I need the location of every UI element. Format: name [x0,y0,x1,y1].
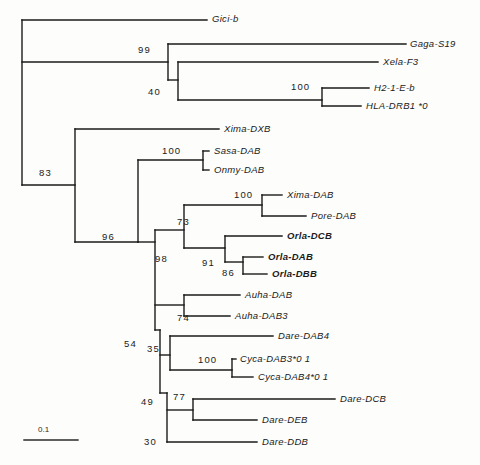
taxon-label-xima-dab: Xima-DAB [287,190,334,200]
taxon-label-xela-f3: Xela-F3 [383,57,418,67]
support-value-node-99: 99 [138,45,151,55]
support-value-node-35: 35 [147,344,160,354]
scale-bar-label: 0.1 [38,425,49,434]
support-value-node-30: 30 [144,437,157,447]
support-value-node-96: 96 [102,232,115,242]
phylogenetic-tree-figure: Gici-bGaga-S19Xela-F3H2-1-E-bHLA-DRB1 *0… [0,0,480,465]
taxon-label-orla-dcb: Orla-DCB [287,231,332,241]
taxon-label-auha-dab: Auha-DAB [245,290,292,300]
support-value-node-73: 73 [177,217,190,227]
taxon-label-onmy-dab: Onmy-DAB [214,165,264,175]
support-value-node-100d: 100 [198,355,217,365]
taxon-label-xima-dxb: Xima-DXB [224,124,271,134]
support-value-node-40: 40 [148,87,161,97]
taxon-label-dare-deb: Dare-DEB [262,415,308,425]
support-value-node-100c: 100 [234,190,253,200]
taxon-label-h2-1-e-b: H2-1-E-b [374,83,415,93]
taxon-label-orla-dbb: Orla-DBB [272,269,317,279]
taxon-label-auha-dab3: Auha-DAB3 [235,311,288,321]
taxon-label-dare-ddb: Dare-DDB [262,437,308,447]
taxon-label-pore-dab: Pore-DAB [311,211,356,221]
support-value-node-86: 86 [222,268,235,278]
taxon-label-cyca-dab4-01: Cyca-DAB4*0 1 [258,372,328,382]
taxon-label-dare-dab4: Dare-DAB4 [278,331,329,341]
support-value-node-100b: 100 [162,146,181,156]
support-value-node-98: 98 [155,254,168,264]
taxon-label-orla-dab: Orla-DAB [268,252,313,262]
tree-branch-canvas [0,0,480,465]
branch-lines [22,20,406,442]
support-value-node-74: 74 [177,313,190,323]
support-value-node-91: 91 [202,258,215,268]
taxon-label-sasa-dab: Sasa-DAB [214,146,261,156]
support-value-node-54: 54 [124,339,137,349]
support-value-node-83: 83 [39,168,52,178]
support-value-node-49: 49 [141,397,154,407]
support-value-node-100a: 100 [291,82,310,92]
support-value-node-77: 77 [173,392,186,402]
taxon-label-gaga-s19: Gaga-S19 [410,39,456,49]
taxon-label-dare-dcb: Dare-DCB [340,394,386,404]
taxon-label-hla-drb1-0: HLA-DRB1 *0 [366,101,428,111]
taxon-label-gici-b: Gici-b [212,14,239,24]
taxon-label-cyca-dab3-01: Cyca-DAB3*0 1 [240,354,310,364]
